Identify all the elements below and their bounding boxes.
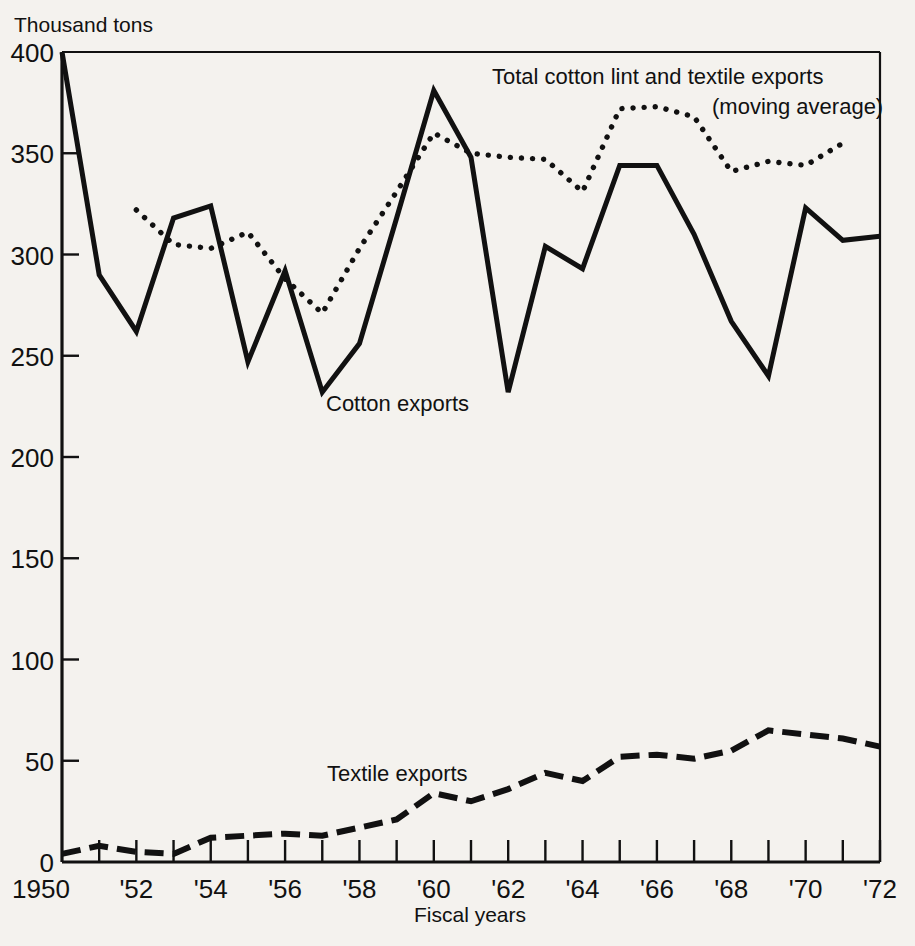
y-tick-label-250: 250 [11, 342, 54, 372]
x-tick-label-1970: '70 [789, 874, 823, 904]
x-tick-label-1956: '56 [268, 874, 302, 904]
annotation-total-exports-line2: (moving average) [712, 94, 883, 119]
y-tick-label-300: 300 [11, 241, 54, 271]
x-tick-label-1952: '52 [119, 874, 153, 904]
x-axis-ticks [99, 840, 880, 862]
y-tick-label-200: 200 [11, 443, 54, 473]
series-textile-exports [62, 730, 880, 854]
data-series-group [62, 52, 880, 854]
x-tick-label-1954: '54 [194, 874, 228, 904]
y-axis-title: Thousand tons [14, 13, 153, 36]
x-tick-label-1960: '60 [417, 874, 451, 904]
y-tick-label-350: 350 [11, 139, 54, 169]
annotation-textile-exports: Textile exports [327, 761, 468, 786]
y-tick-label-150: 150 [11, 544, 54, 574]
y-axis-tick-labels: 050100150200250300350400 [11, 38, 54, 878]
x-axis-tick-labels: 1950'52'54'56'58'60'62'64'66'68'70'72 [12, 874, 897, 904]
x-tick-label-1964: '64 [566, 874, 600, 904]
chart-page: 050100150200250300350400 Thousand tons 1… [0, 0, 915, 946]
y-axis: 050100150200250300350400 Thousand tons [11, 13, 153, 878]
x-tick-label-1962: '62 [491, 874, 525, 904]
y-axis-ticks [62, 153, 79, 761]
y-tick-label-50: 50 [25, 747, 54, 777]
exports-line-chart: 050100150200250300350400 Thousand tons 1… [0, 0, 915, 946]
annotation-cotton-exports: Cotton exports [326, 391, 469, 416]
annotation-total-exports-line1: Total cotton lint and textile exports [492, 64, 823, 89]
x-axis-title: Fiscal years [414, 903, 526, 926]
x-tick-label-1972: '72 [863, 874, 897, 904]
x-tick-label-1968: '68 [714, 874, 748, 904]
x-tick-label-1958: '58 [343, 874, 377, 904]
x-tick-label-1966: '66 [640, 874, 674, 904]
x-tick-label-1950: 1950 [12, 874, 70, 904]
plot-frame [62, 52, 880, 862]
y-tick-label-100: 100 [11, 646, 54, 676]
y-tick-label-400: 400 [11, 38, 54, 68]
